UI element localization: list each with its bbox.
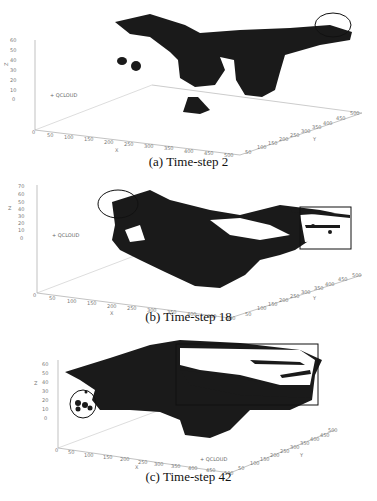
svg-text:500: 500 <box>352 272 362 278</box>
svg-text:150: 150 <box>87 300 97 306</box>
svg-text:10: 10 <box>10 87 16 93</box>
svg-text:50: 50 <box>68 449 74 455</box>
svg-text:0: 0 <box>44 415 47 421</box>
svg-text:150: 150 <box>84 136 94 142</box>
svg-text:10: 10 <box>18 227 24 233</box>
svg-text:350: 350 <box>314 285 324 291</box>
svg-text:0: 0 <box>12 96 15 102</box>
svg-text:300: 300 <box>301 289 311 295</box>
legend-qcloud-b: + QCLOUD <box>52 232 79 238</box>
svg-text:Z: Z <box>3 62 9 66</box>
svg-text:Z: Z <box>8 205 12 211</box>
svg-text:Y: Y <box>312 136 317 142</box>
scatter-plot-b: 70605040 3020100 Z 050100150 20025030035… <box>0 170 377 320</box>
svg-text:100: 100 <box>84 452 94 458</box>
svg-text:0: 0 <box>55 447 58 453</box>
svg-text:300: 300 <box>290 444 300 450</box>
svg-text:200: 200 <box>120 456 130 462</box>
panel-c: 60504030 20100 Z 050100150 200250300350 … <box>0 330 377 480</box>
svg-text:40: 40 <box>18 206 24 212</box>
svg-text:150: 150 <box>260 456 270 462</box>
svg-text:60: 60 <box>18 191 24 197</box>
svg-text:X: X <box>115 147 119 153</box>
svg-text:250: 250 <box>290 293 300 299</box>
svg-text:450: 450 <box>338 276 348 282</box>
svg-text:350: 350 <box>312 124 322 130</box>
svg-text:100: 100 <box>67 298 77 304</box>
svg-text:300: 300 <box>154 461 164 467</box>
svg-text:30: 30 <box>18 213 24 219</box>
svg-text:50: 50 <box>18 199 24 205</box>
caption-c: (c) Time-step 42 <box>0 469 377 485</box>
svg-text:60: 60 <box>42 361 48 367</box>
svg-text:250: 250 <box>138 459 148 465</box>
svg-text:10: 10 <box>42 406 48 412</box>
svg-text:Y: Y <box>312 295 317 301</box>
svg-text:350: 350 <box>164 145 174 151</box>
caption-b: (b) Time-step 18 <box>0 309 377 325</box>
svg-text:20: 20 <box>42 397 48 403</box>
svg-text:400: 400 <box>310 436 320 442</box>
svg-text:200: 200 <box>104 139 114 145</box>
scatter-plot-c: 60504030 20100 Z 050100150 200250300350 … <box>0 330 377 480</box>
caption-a: (a) Time-step 2 <box>0 154 377 170</box>
svg-text:200: 200 <box>279 136 289 142</box>
svg-text:60: 60 <box>10 37 16 43</box>
svg-text:0: 0 <box>32 129 35 135</box>
panel-b: 70605040 3020100 Z 050100150 20025030035… <box>0 170 377 320</box>
svg-text:250: 250 <box>124 141 134 147</box>
svg-text:150: 150 <box>103 454 113 460</box>
svg-text:30: 30 <box>10 67 16 73</box>
svg-text:300: 300 <box>144 143 154 149</box>
svg-text:0: 0 <box>33 292 36 298</box>
legend-qcloud-a: + QCLOUD <box>50 92 77 98</box>
svg-text:300: 300 <box>301 128 311 134</box>
svg-text:50: 50 <box>47 132 53 138</box>
panel-a: 605040 3020100 Z 050100150 200250300350 … <box>0 0 377 165</box>
svg-text:450: 450 <box>336 115 346 121</box>
svg-text:400: 400 <box>323 120 333 126</box>
svg-text:150: 150 <box>268 301 278 307</box>
svg-text:100: 100 <box>257 144 267 150</box>
svg-text:20: 20 <box>10 77 16 83</box>
svg-text:100: 100 <box>250 460 260 466</box>
svg-text:40: 40 <box>10 57 16 63</box>
svg-text:250: 250 <box>290 132 300 138</box>
svg-text:200: 200 <box>279 297 289 303</box>
svg-text:200: 200 <box>270 452 280 458</box>
svg-text:100: 100 <box>64 134 74 140</box>
svg-text:50: 50 <box>10 47 16 53</box>
svg-text:Z: Z <box>34 380 38 386</box>
svg-text:50: 50 <box>42 370 48 376</box>
svg-text:70: 70 <box>18 183 24 189</box>
scatter-plot-a: 605040 3020100 Z 050100150 200250300350 … <box>0 0 377 165</box>
svg-text:50: 50 <box>49 295 55 301</box>
svg-text:500: 500 <box>350 110 360 116</box>
svg-text:150: 150 <box>268 140 278 146</box>
svg-text:40: 40 <box>42 379 48 385</box>
svg-text:0: 0 <box>20 235 23 241</box>
svg-text:20: 20 <box>18 220 24 226</box>
svg-text:250: 250 <box>280 448 290 454</box>
svg-text:350: 350 <box>300 440 310 446</box>
svg-text:Y: Y <box>299 452 304 458</box>
legend-qcloud-c: + QCLOUD <box>200 456 227 462</box>
svg-text:500: 500 <box>328 427 338 433</box>
svg-text:400: 400 <box>325 281 335 287</box>
svg-text:30: 30 <box>42 388 48 394</box>
